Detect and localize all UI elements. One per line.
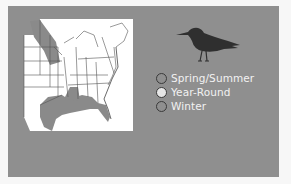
legend-label: Winter <box>171 100 206 112</box>
range-map <box>18 17 133 131</box>
season-legend: Spring/Summer Year-Round Winter <box>156 71 254 113</box>
year-round-swatch-icon <box>156 87 167 98</box>
bird-silhouette-icon <box>174 19 246 69</box>
range-map-panel: Spring/Summer Year-Round Winter <box>8 6 279 177</box>
legend-label: Spring/Summer <box>171 72 254 84</box>
winter-swatch-icon <box>156 101 167 112</box>
legend-item-year-round: Year-Round <box>156 85 254 99</box>
spring-summer-swatch-icon <box>156 73 167 84</box>
legend-item-spring-summer: Spring/Summer <box>156 71 254 85</box>
legend-item-winter: Winter <box>156 99 254 113</box>
us-map-graphic <box>18 17 133 131</box>
legend-label: Year-Round <box>171 86 231 98</box>
